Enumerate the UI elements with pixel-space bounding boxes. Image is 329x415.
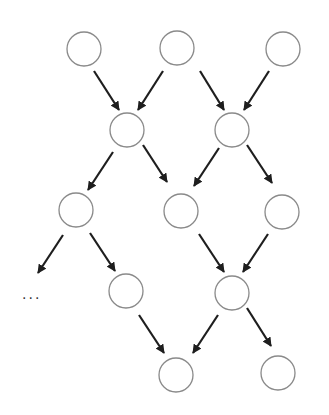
arrow-n10-to-n11 [193, 315, 218, 353]
directed-graph-diagram: ··· [0, 0, 329, 415]
node-n6 [59, 193, 93, 227]
node-n2 [160, 31, 194, 65]
node-n1 [67, 32, 101, 66]
node-n12 [261, 356, 295, 390]
arrow-n4-to-n7 [143, 145, 167, 182]
arrow-n10-to-n12 [247, 308, 271, 346]
arrow-n5-to-n7 [194, 148, 219, 186]
node-n3 [266, 32, 300, 66]
node-n9 [109, 274, 143, 308]
nodes-layer [59, 31, 300, 392]
node-n5 [215, 113, 249, 147]
arrow-n4-to-n6 [88, 152, 113, 190]
arrow-n3-to-n5 [244, 71, 269, 110]
arrow-n2-to-n4 [138, 71, 163, 110]
arrow-n2-to-n5 [200, 71, 224, 110]
node-n8 [265, 195, 299, 229]
arrow-n5-to-n8 [247, 145, 272, 183]
arrow-n1-to-n4 [94, 71, 119, 110]
continuation-ellipsis: ··· [22, 290, 41, 306]
node-n7 [164, 194, 198, 228]
arrow-n9-to-n11 [139, 315, 164, 353]
arrow-n8-to-n10 [243, 234, 268, 272]
node-n4 [110, 113, 144, 147]
node-n11 [159, 358, 193, 392]
node-n10 [215, 276, 249, 310]
arrow-n6-to-ellipsis [38, 235, 63, 273]
arrow-n7-to-n10 [199, 234, 224, 272]
arrow-n6-to-n9 [90, 233, 115, 271]
